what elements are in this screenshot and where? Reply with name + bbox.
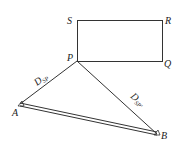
label-A: A [11,107,19,118]
svg-text:DSP': DSP' [127,90,148,110]
svg-text:DSP: DSP [31,70,50,89]
line-PA [20,61,77,104]
label-R: R [164,15,171,26]
label-B: B [161,130,167,141]
label-Q: Q [164,58,172,69]
label-P: P [66,52,73,63]
distance-label-PB: DSP' [127,90,148,110]
baseline-AB [20,103,157,135]
label-S: S [67,15,72,26]
survey-diagram: S R P Q A B DSP DSP' [0,0,181,147]
rectangle-SRQP [78,21,163,62]
distance-label-PA: DSP [31,70,50,89]
